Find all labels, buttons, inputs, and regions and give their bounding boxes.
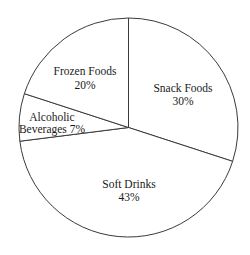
slice-value-alcoholic-beverages: Beverages 7% — [19, 123, 86, 136]
slice-value-frozen-foods: 20% — [74, 79, 96, 91]
pie-chart: Snack Foods 30% Soft Drinks 43% Alcoholi… — [0, 0, 250, 255]
slice-value-soft-drinks: 43% — [118, 191, 140, 203]
slice-label-soft-drinks: Soft Drinks — [102, 178, 156, 190]
slice-label-alcoholic-beverages: Alcoholic — [29, 111, 74, 123]
slice-value-snack-foods: 30% — [172, 95, 194, 107]
slice-label-frozen-foods: Frozen Foods — [54, 65, 117, 77]
slice-label-snack-foods: Snack Foods — [153, 82, 213, 94]
